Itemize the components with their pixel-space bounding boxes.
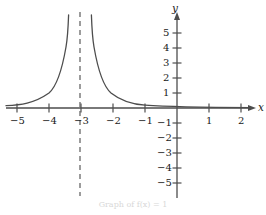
plot-canvas [0, 0, 266, 215]
x-axis-label: x [258, 102, 264, 113]
y-tick-label--1: −1 [157, 118, 172, 128]
y-tick-label-3: 3 [163, 58, 169, 68]
y-tick-label--5: −5 [157, 178, 172, 188]
graph-figure: −5 −4 −3 −2 −1 1 2 5 4 3 2 1 −1 −2 −3 −4… [0, 0, 266, 215]
y-tick-label-2: 2 [163, 73, 169, 83]
y-axis-label: y [172, 3, 178, 14]
x-tick-label-2: 2 [238, 116, 244, 126]
y-tick-label-5: 5 [163, 28, 169, 38]
y-tick-label--3: −3 [157, 148, 172, 158]
x-tick-label--4: −4 [42, 116, 57, 126]
x-tick-label-1: 1 [206, 116, 212, 126]
x-tick-label--1: −1 [138, 116, 153, 126]
y-axis [174, 12, 180, 198]
x-tick-label--2: −2 [106, 116, 121, 126]
curve-left-branch [6, 15, 69, 106]
y-tick-label-4: 4 [163, 43, 169, 53]
x-tick-label--3: −3 [74, 116, 89, 126]
x-tick-label--5: −5 [10, 116, 25, 126]
figure-caption: Graph of f(x) = 1 [0, 200, 266, 215]
curve-right-branch [91, 15, 251, 108]
y-tick-label-1: 1 [163, 88, 169, 98]
y-tick-label--4: −4 [157, 163, 172, 173]
y-tick-label--2: −2 [157, 133, 172, 143]
